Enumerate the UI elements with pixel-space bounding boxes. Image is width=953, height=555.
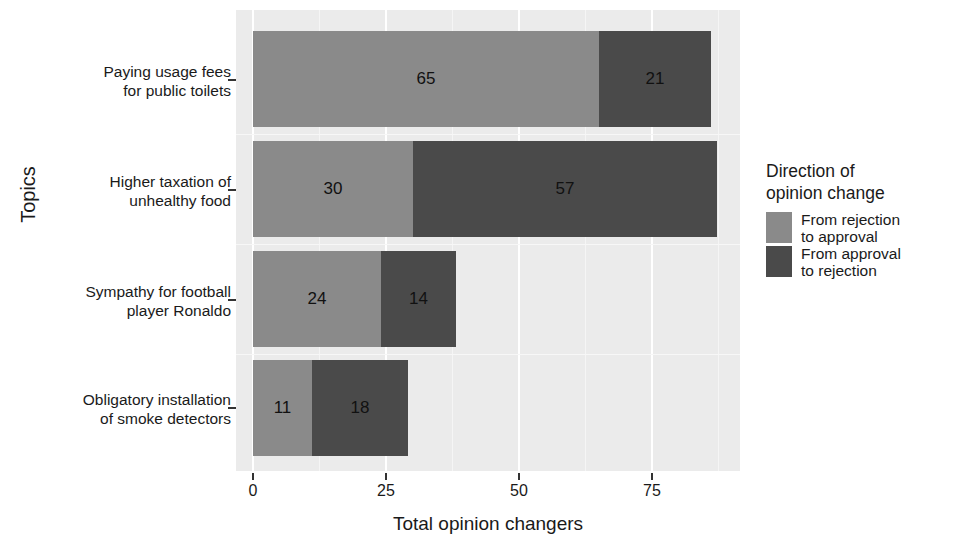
legend-title-line1: Direction of [766, 160, 946, 182]
legend-label-0: From rejection to approval [801, 212, 900, 245]
gridline-y-1 [236, 244, 740, 245]
y-tick-label-0: Paying usage fees for public toilets [21, 62, 231, 100]
bar-segment-dark-2[interactable]: 14 [381, 251, 456, 347]
x-axis-title: Total opinion changers [236, 513, 740, 535]
legend: Direction of opinion change From rejecti… [766, 160, 946, 280]
bar-chart-figure: Topics Paying usage fees for public toil… [0, 0, 953, 555]
x-tick-label-75: 75 [622, 482, 682, 500]
x-tick-mark-25 [385, 473, 387, 480]
bar-segment-dark-1[interactable]: 57 [413, 141, 717, 237]
bar-segment-light-0[interactable]: 65 [253, 31, 599, 127]
y-tick-label-3-line2: of smoke detectors [21, 409, 231, 428]
x-tick-mark-50 [518, 473, 520, 480]
legend-label-0-line2: to approval [801, 229, 900, 246]
y-tick-label-0-line1: Paying usage fees [21, 62, 231, 81]
legend-label-1-line1: From approval [801, 246, 901, 263]
gridline-y-2 [236, 354, 740, 355]
y-tick-mark-0 [228, 79, 236, 81]
legend-label-1-line2: to rejection [801, 263, 901, 280]
x-tick-label-50: 50 [489, 482, 549, 500]
y-tick-label-1-line2: unhealthy food [21, 191, 231, 210]
legend-title-line2: opinion change [766, 182, 946, 204]
legend-key-dark-icon [766, 246, 792, 277]
y-tick-mark-1 [228, 189, 236, 191]
y-tick-label-3: Obligatory installation of smoke detecto… [21, 390, 231, 428]
y-tick-label-3-line1: Obligatory installation [21, 390, 231, 409]
x-tick-mark-0 [252, 473, 254, 480]
x-tick-label-0: 0 [223, 482, 283, 500]
y-tick-label-0-line2: for public toilets [21, 81, 231, 100]
x-tick-label-25: 25 [356, 482, 416, 500]
y-tick-label-2-line1: Sympathy for football [21, 282, 231, 301]
gridline-y-0 [236, 134, 740, 135]
legend-title: Direction of opinion change [766, 160, 946, 204]
legend-label-1: From approval to rejection [801, 246, 901, 279]
plot-panel: 65 21 30 57 24 14 11 18 [236, 10, 740, 471]
bar-segment-light-2[interactable]: 24 [253, 251, 381, 347]
x-tick-mark-75 [651, 473, 653, 480]
legend-item-from-rejection-to-approval[interactable]: From rejection to approval [766, 212, 946, 245]
legend-item-from-approval-to-rejection[interactable]: From approval to rejection [766, 246, 946, 279]
y-tick-label-2-line2: player Ronaldo [21, 301, 231, 320]
gridline-x-87 [718, 10, 719, 471]
bar-segment-dark-3[interactable]: 18 [312, 360, 408, 456]
y-tick-mark-2 [228, 299, 236, 301]
legend-key-light-icon [766, 212, 792, 243]
y-tick-label-1: Higher taxation of unhealthy food [21, 172, 231, 210]
bar-segment-light-3[interactable]: 11 [253, 360, 312, 456]
bar-segment-dark-0[interactable]: 21 [599, 31, 711, 127]
y-tick-label-2: Sympathy for football player Ronaldo [21, 282, 231, 320]
bar-segment-light-1[interactable]: 30 [253, 141, 413, 237]
y-tick-mark-3 [228, 407, 236, 409]
y-tick-label-1-line1: Higher taxation of [21, 172, 231, 191]
legend-label-0-line1: From rejection [801, 212, 900, 229]
